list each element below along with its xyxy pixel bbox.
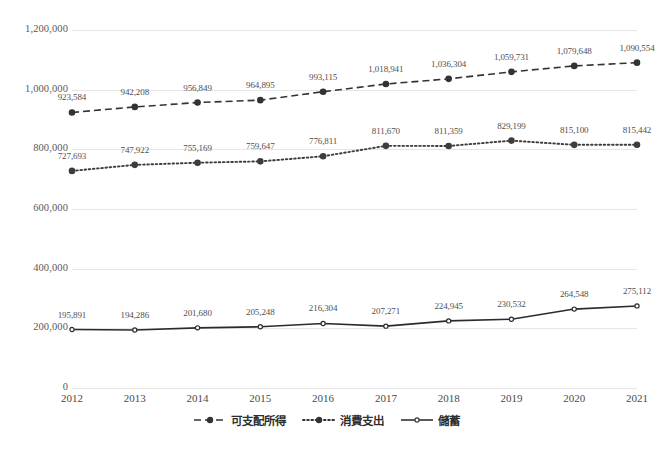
data-point-marker <box>132 104 137 109</box>
series-layer <box>72 30 637 388</box>
data-point-label: 201,680 <box>166 308 230 318</box>
legend-label: 可支配所得 <box>231 412 286 428</box>
x-axis-tick-label: 2018 <box>419 392 479 404</box>
data-point-marker <box>383 81 388 86</box>
data-point-marker <box>572 63 577 68</box>
data-point-label: 195,891 <box>40 310 104 320</box>
data-point-marker <box>195 326 199 330</box>
data-point-label: 747,922 <box>103 145 167 155</box>
data-point-marker <box>258 159 263 164</box>
data-point-label: 776,811 <box>291 136 355 146</box>
data-point-marker <box>446 143 451 148</box>
data-point-label: 1,059,731 <box>479 52 543 62</box>
data-point-marker <box>383 143 388 148</box>
x-axis-tick-label: 2016 <box>293 392 353 404</box>
data-point-label: 964,895 <box>228 80 292 90</box>
data-point-label: 264,548 <box>542 289 606 299</box>
data-point-label: 811,359 <box>417 126 481 136</box>
y-axis-tick-label: 1,200,000 <box>2 23 68 34</box>
data-point-marker <box>446 76 451 81</box>
data-point-marker <box>70 327 74 331</box>
data-point-marker <box>635 304 639 308</box>
data-point-marker <box>509 138 514 143</box>
data-point-label: 829,199 <box>479 121 543 131</box>
data-point-marker <box>321 89 326 94</box>
legend-swatch-icon <box>193 415 227 425</box>
data-point-label: 755,169 <box>166 143 230 153</box>
data-point-label: 205,248 <box>228 307 292 317</box>
data-point-marker <box>384 324 388 328</box>
data-point-marker <box>509 69 514 74</box>
legend-label: 儲蓄 <box>438 412 460 428</box>
y-axis-tick-label: 400,000 <box>2 262 68 273</box>
data-point-label: 923,584 <box>40 92 104 102</box>
data-point-label: 224,945 <box>417 301 481 311</box>
data-point-label: 759,647 <box>228 141 292 151</box>
legend-item[interactable]: 可支配所得 <box>193 412 286 428</box>
data-point-label: 942,208 <box>103 87 167 97</box>
x-axis: 2012201320142015201620172018201920202021 <box>72 392 637 410</box>
data-point-marker <box>258 98 263 103</box>
data-point-label: 811,670 <box>354 126 418 136</box>
data-point-label: 230,532 <box>479 299 543 309</box>
data-point-marker <box>321 154 326 159</box>
data-point-label: 1,036,304 <box>417 59 481 69</box>
data-point-marker <box>69 110 74 115</box>
legend: 可支配所得消費支出儲蓄 <box>0 412 653 428</box>
legend-swatch-icon <box>302 415 336 425</box>
data-point-marker <box>258 325 262 329</box>
x-axis-tick-label: 2020 <box>544 392 604 404</box>
data-point-marker <box>195 100 200 105</box>
data-point-marker <box>634 142 639 147</box>
legend-item[interactable]: 消費支出 <box>302 412 384 428</box>
x-axis-tick-label: 2019 <box>481 392 541 404</box>
data-point-marker <box>133 328 137 332</box>
data-point-label: 207,271 <box>354 306 418 316</box>
data-point-marker <box>509 317 513 321</box>
data-point-label: 815,100 <box>542 125 606 135</box>
data-point-label: 194,286 <box>103 310 167 320</box>
data-point-label: 1,090,554 <box>605 43 660 53</box>
x-axis-tick-label: 2017 <box>356 392 416 404</box>
y-axis-tick-label: 0 <box>2 381 68 392</box>
data-point-label: 1,018,941 <box>354 64 418 74</box>
data-point-marker <box>572 307 576 311</box>
data-point-marker <box>132 162 137 167</box>
data-point-marker <box>321 321 325 325</box>
data-point-label: 275,112 <box>605 286 660 296</box>
legend-item[interactable]: 儲蓄 <box>400 412 460 428</box>
y-axis: 0200,000400,000600,000800,0001,000,0001,… <box>0 30 68 388</box>
data-point-marker <box>69 168 74 173</box>
data-point-label: 1,079,648 <box>542 46 606 56</box>
y-axis-tick-label: 600,000 <box>2 202 68 213</box>
gridline <box>72 388 637 389</box>
data-point-label: 815,442 <box>605 125 660 135</box>
y-axis-tick-label: 200,000 <box>2 321 68 332</box>
data-point-marker <box>634 60 639 65</box>
legend-label: 消費支出 <box>340 412 384 428</box>
x-axis-tick-label: 2015 <box>230 392 290 404</box>
data-point-label: 956,849 <box>166 83 230 93</box>
x-axis-tick-label: 2014 <box>168 392 228 404</box>
x-axis-tick-label: 2013 <box>105 392 165 404</box>
data-point-label: 993,115 <box>291 72 355 82</box>
data-point-marker <box>447 319 451 323</box>
data-point-label: 216,304 <box>291 303 355 313</box>
x-axis-tick-label: 2012 <box>42 392 102 404</box>
plot-area: 923,584942,208956,849964,895993,1151,018… <box>72 30 637 388</box>
legend-swatch-icon <box>400 415 434 425</box>
data-point-label: 727,693 <box>40 151 104 161</box>
data-point-marker <box>572 142 577 147</box>
x-axis-tick-label: 2021 <box>607 392 660 404</box>
data-point-marker <box>195 160 200 165</box>
